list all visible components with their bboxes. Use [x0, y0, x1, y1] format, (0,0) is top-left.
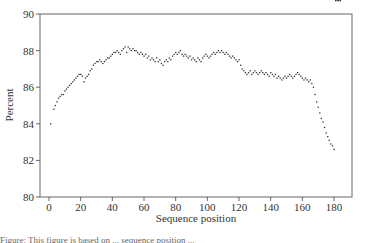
data-point: [154, 61, 155, 62]
data-point: [56, 101, 57, 102]
plot-frame: [40, 14, 352, 197]
data-point: [324, 127, 325, 128]
data-point: [338, 0, 339, 1]
data-point: [200, 61, 201, 62]
data-point: [276, 77, 277, 78]
data-point: [205, 54, 206, 55]
data-point: [281, 79, 282, 80]
data-point: [159, 59, 160, 60]
data-point: [234, 57, 235, 58]
data-point: [253, 72, 254, 73]
data-point: [332, 145, 333, 146]
x-axis-ticks: 020406080100120140160180: [46, 197, 343, 213]
data-point: [248, 72, 249, 73]
data-point: [109, 57, 110, 58]
data-point: [82, 76, 83, 77]
data-point: [191, 59, 192, 60]
data-point: [215, 54, 216, 55]
data-point: [145, 54, 146, 55]
data-point: [219, 52, 220, 53]
data-point: [124, 46, 125, 47]
data-point: [272, 74, 273, 75]
data-point: [267, 74, 268, 75]
data-point: [319, 112, 320, 113]
data-point: [112, 54, 113, 55]
data-point: [251, 74, 252, 75]
data-point: [295, 74, 296, 75]
data-point: [325, 132, 326, 133]
data-point: [169, 57, 170, 58]
data-point: [148, 55, 149, 56]
data-point: [232, 55, 233, 56]
data-point: [318, 107, 319, 108]
x-axis-label: Sequence position: [156, 212, 237, 224]
data-point: [156, 57, 157, 58]
data-point: [123, 48, 124, 49]
data-point: [327, 136, 328, 137]
data-point: [340, 0, 341, 1]
data-point: [135, 50, 136, 51]
data-point: [299, 74, 300, 75]
data-point: [292, 77, 293, 78]
data-point: [66, 88, 67, 89]
data-point: [50, 123, 51, 124]
data-point: [192, 57, 193, 58]
data-point: [197, 57, 198, 58]
data-point: [314, 94, 315, 95]
data-point: [175, 52, 176, 53]
data-point: [116, 50, 117, 51]
data-point: [256, 72, 257, 73]
data-point: [131, 50, 132, 51]
data-point: [74, 79, 75, 80]
data-point: [164, 61, 165, 62]
x-tick-label: 160: [294, 201, 311, 213]
data-point: [224, 54, 225, 55]
data-point: [243, 70, 244, 71]
data-point: [90, 70, 91, 71]
data-point: [262, 72, 263, 73]
data-point: [186, 55, 187, 56]
data-point: [183, 55, 184, 56]
data-point: [297, 72, 298, 73]
data-point: [178, 52, 179, 53]
data-point: [91, 68, 92, 69]
data-point: [196, 61, 197, 62]
data-point: [300, 76, 301, 77]
data-point: [306, 79, 307, 80]
data-point: [283, 77, 284, 78]
data-point: [257, 74, 258, 75]
data-point: [208, 57, 209, 58]
y-tick-label: 90: [23, 8, 35, 20]
data-point: [128, 46, 129, 47]
data-point: [142, 54, 143, 55]
scatter-chart: 808284868890 020406080100120140160180 Se…: [0, 0, 365, 243]
data-point: [129, 48, 130, 49]
data-point: [329, 140, 330, 141]
y-tick-label: 86: [23, 81, 35, 93]
data-point: [305, 77, 306, 78]
data-point: [83, 81, 84, 82]
data-point: [210, 55, 211, 56]
y-tick-label: 82: [23, 154, 34, 166]
data-point: [273, 76, 274, 77]
x-tick-label: 40: [107, 201, 119, 213]
data-point: [194, 59, 195, 60]
data-point: [118, 52, 119, 53]
data-point: [137, 52, 138, 53]
data-point: [166, 59, 167, 60]
data-point: [113, 52, 114, 53]
data-point: [221, 50, 222, 51]
data-point: [237, 61, 238, 62]
data-point: [245, 72, 246, 73]
data-point: [235, 59, 236, 60]
data-point: [180, 50, 181, 51]
data-point: [204, 55, 205, 56]
data-point: [150, 59, 151, 60]
data-point: [188, 57, 189, 58]
data-point: [321, 118, 322, 119]
data-point: [218, 50, 219, 51]
data-point: [55, 105, 56, 106]
data-point: [72, 81, 73, 82]
data-point: [93, 65, 94, 66]
data-point: [110, 55, 111, 56]
